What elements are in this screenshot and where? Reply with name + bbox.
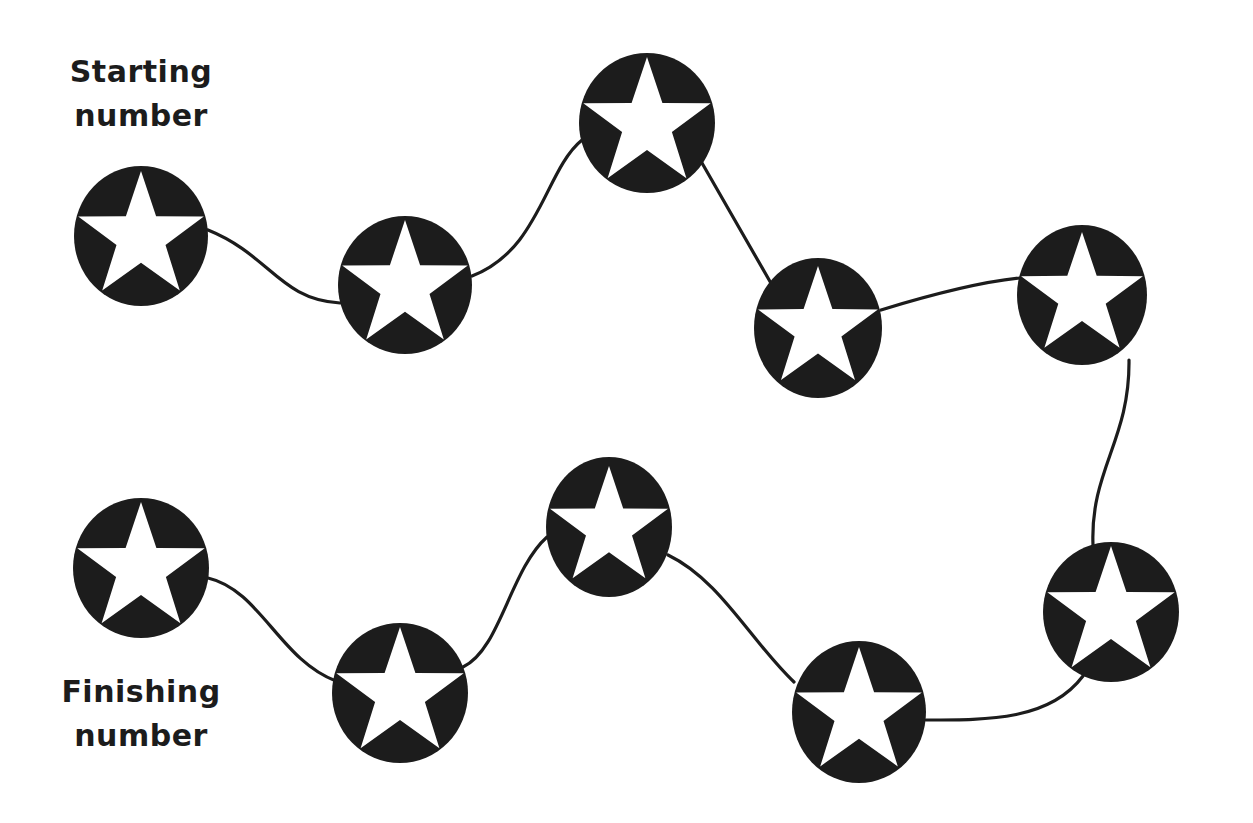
number-node[interactable] — [1017, 225, 1147, 365]
number-node[interactable] — [579, 53, 715, 193]
number-node[interactable] — [792, 641, 926, 783]
number-node[interactable] — [332, 623, 468, 763]
number-node[interactable] — [754, 258, 882, 398]
connector-line — [668, 555, 794, 682]
connector-line — [472, 140, 582, 276]
connector-line — [1093, 360, 1129, 545]
connector-line — [926, 676, 1083, 720]
finishing-label-line2: number — [40, 714, 242, 758]
finish-number-node[interactable] — [73, 498, 209, 638]
connector-line — [881, 278, 1020, 310]
starting-label-line2: number — [40, 94, 242, 138]
starting-number-label: Starting number — [40, 50, 242, 138]
number-node[interactable] — [546, 457, 672, 597]
finishing-label-line1: Finishing — [40, 670, 242, 714]
start-number-node[interactable] — [74, 166, 208, 306]
connector-line — [208, 578, 336, 681]
connector-line — [702, 163, 772, 285]
number-node[interactable] — [1043, 542, 1179, 682]
starting-label-line1: Starting — [40, 50, 242, 94]
number-node[interactable] — [338, 216, 472, 354]
connector-line — [208, 230, 340, 303]
connector-lines — [208, 140, 1129, 720]
finishing-number-label: Finishing number — [40, 670, 242, 758]
connector-line — [463, 537, 547, 667]
